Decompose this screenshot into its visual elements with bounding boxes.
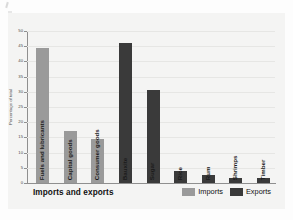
- plot-area: 05101520253035404550 Fuels and lubricant…: [27, 31, 275, 183]
- y-tick-label: 50: [18, 29, 23, 33]
- x-axis-category-label: Timber: [259, 159, 265, 180]
- y-tick-mark: [24, 107, 27, 108]
- page-background: Percentage of total 05101520253035404550…: [0, 0, 293, 220]
- legend-item-imports: Imports: [182, 187, 223, 196]
- gridline: [27, 46, 275, 47]
- x-axis-category-label: Sugar: [149, 162, 155, 180]
- x-axis-category-label: Consumer goods: [94, 129, 100, 180]
- legend-swatch-exports-icon: [230, 188, 243, 196]
- x-axis-category-label: Rum: [204, 166, 210, 180]
- y-tick-mark: [24, 61, 27, 62]
- y-tick-label: 20: [18, 120, 23, 124]
- x-axis-category-label: Capital goods: [67, 139, 73, 180]
- legend-item-exports: Exports: [230, 187, 271, 196]
- y-tick-mark: [24, 183, 27, 184]
- y-axis-title: Percentage of total: [8, 89, 13, 125]
- y-tick-label: 30: [18, 90, 23, 94]
- y-tick-mark: [24, 46, 27, 47]
- chart-figure: Percentage of total 05101520253035404550…: [8, 13, 285, 209]
- y-tick-label: 10: [18, 150, 23, 154]
- legend-swatch-imports-icon: [182, 188, 195, 196]
- gridline: [27, 61, 275, 62]
- chart-title: Imports and exports: [33, 188, 114, 197]
- y-tick-label: 45: [18, 44, 23, 48]
- y-tick-label: 15: [18, 135, 23, 139]
- chart-legend: Imports Exports: [182, 187, 271, 196]
- y-tick-label: 5: [21, 166, 23, 170]
- legend-label-imports: Imports: [198, 187, 223, 196]
- y-tick-mark: [24, 122, 27, 123]
- gridline: [27, 31, 275, 32]
- y-tick-mark: [24, 153, 27, 154]
- y-tick-mark: [24, 31, 27, 32]
- x-axis-line: [27, 183, 276, 184]
- y-tick-label: 40: [18, 59, 23, 63]
- y-tick-label: 25: [18, 105, 23, 109]
- y-tick-mark: [24, 92, 27, 93]
- y-tick-mark: [24, 168, 27, 169]
- gridline: [27, 77, 275, 78]
- y-tick-label: 0: [21, 181, 23, 185]
- y-tick-mark: [24, 137, 27, 138]
- y-tick-label: 35: [18, 74, 23, 78]
- x-axis-category-label: Rice: [177, 167, 183, 180]
- legend-label-exports: Exports: [246, 187, 271, 196]
- x-axis-category-label: Shrimps: [232, 155, 238, 180]
- x-axis-category-label: Fuels and lubricants: [39, 120, 45, 180]
- scan-artifact-icon: [5, 2, 9, 8]
- x-axis-category-label: Bauxite: [122, 158, 128, 180]
- y-tick-mark: [24, 77, 27, 78]
